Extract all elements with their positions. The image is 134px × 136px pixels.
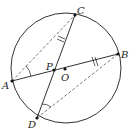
point-a: [10, 79, 13, 82]
tick-mark-pc: [57, 36, 65, 42]
angle-mark-d: [42, 104, 51, 107]
point-b: [116, 52, 119, 55]
label-d: D: [27, 119, 36, 130]
geometry-diagram: A B C D P O: [0, 0, 134, 136]
tick-mark-pb: [92, 57, 98, 66]
label-o: O: [61, 72, 69, 83]
angle-mark-a: [26, 66, 31, 76]
point-o: [63, 67, 66, 70]
label-c: C: [77, 5, 85, 16]
label-b: B: [120, 49, 128, 60]
label-a: A: [1, 80, 9, 91]
point-p: [52, 68, 55, 71]
label-p: P: [45, 61, 53, 72]
